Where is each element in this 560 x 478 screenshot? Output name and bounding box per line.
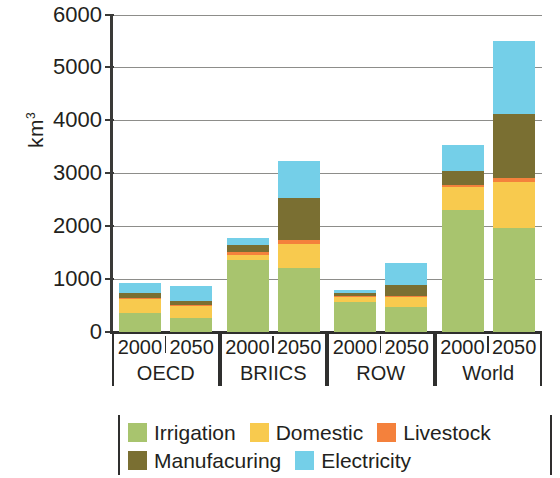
bar-segment-manufacturing (278, 198, 320, 240)
bar-row-2000 (334, 290, 376, 332)
x-axis-year-labels: 20002050 (437, 334, 541, 361)
bar-oecd-2000 (119, 283, 161, 332)
bar-segment-irrigation (119, 313, 161, 332)
bar-segment-electricity (170, 286, 212, 301)
y-axis-tick-label: 1000 (34, 268, 102, 290)
x-axis-year-labels: 20002050 (329, 334, 433, 361)
x-axis-year-label: 2050 (381, 334, 433, 361)
bar-segment-domestic (493, 182, 535, 228)
legend-item-domestic: Domestic (250, 422, 364, 443)
legend: IrrigationDomesticLivestock Manufacuring… (118, 415, 552, 475)
bar-segment-electricity (442, 145, 484, 171)
livestock-swatch-icon (377, 423, 396, 442)
x-axis-year-label: 2050 (273, 334, 325, 361)
y-axis-tick-label: 0 (34, 321, 102, 343)
bar-segment-electricity (385, 263, 427, 285)
x-axis-year-label: 2050 (488, 334, 540, 361)
y-axis-tick-label: 2000 (34, 215, 102, 237)
x-axis-group-row: 20002050ROW (327, 334, 435, 386)
x-axis-year-labels: 20002050 (114, 334, 218, 361)
legend-row-1: IrrigationDomesticLivestock (128, 418, 544, 446)
bar-segment-irrigation (170, 318, 212, 332)
bar-oecd-2050 (170, 286, 212, 332)
bar-segment-domestic (278, 244, 320, 268)
y-axis-tick-label: 3000 (34, 162, 102, 184)
bar-segment-manufacturing (227, 245, 269, 252)
bar-segment-irrigation (278, 268, 320, 332)
bar-segment-electricity (227, 238, 269, 245)
domestic-swatch-icon (250, 423, 269, 442)
legend-label: Livestock (403, 422, 491, 443)
x-axis-year-labels: 20002050 (222, 334, 326, 361)
x-axis-year-label: 2000 (437, 334, 489, 361)
legend-item-electricity: Electricity (295, 450, 411, 471)
x-axis-year-label: 2050 (166, 334, 218, 361)
bar-row-2050 (385, 263, 427, 332)
x-axis-group-label: OECD (114, 360, 218, 386)
x-axis: 20002050OECD20002050BRIICS20002050ROW200… (110, 334, 542, 386)
bar-briics-2050 (278, 161, 320, 332)
bar-segment-domestic (170, 306, 212, 318)
legend-item-livestock: Livestock (377, 422, 491, 443)
bar-segment-irrigation (493, 228, 535, 332)
legend-label: Manufacuring (154, 450, 281, 471)
x-axis-group-oecd: 20002050OECD (112, 334, 220, 386)
y-axis-tick-label: 4000 (34, 109, 102, 131)
plot-area (112, 14, 542, 332)
legend-label: Irrigation (154, 422, 236, 443)
legend-row-2: ManufacuringElectricity (128, 446, 544, 474)
x-axis-group-world: 20002050World (435, 334, 543, 386)
bar-segment-manufacturing (442, 171, 484, 185)
x-axis-group-briics: 20002050BRIICS (220, 334, 328, 386)
bar-segment-domestic (442, 187, 484, 210)
x-axis-year-label: 2000 (114, 334, 166, 361)
electricity-swatch-icon (295, 451, 314, 470)
bar-segment-manufacturing (493, 114, 535, 178)
legend-label: Domestic (276, 422, 364, 443)
legend-label: Electricity (321, 450, 411, 471)
manufacturing-swatch-icon (128, 451, 147, 470)
x-axis-group-label: ROW (329, 360, 433, 386)
bar-segment-irrigation (442, 210, 484, 332)
bar-segment-electricity (493, 41, 535, 114)
bar-segment-domestic (119, 299, 161, 313)
bar-segment-domestic (385, 297, 427, 307)
bar-segment-irrigation (227, 260, 269, 332)
bar-world-2000 (442, 145, 484, 332)
y-axis-tick-label: 6000 (34, 4, 102, 26)
water-demand-stacked-bar-chart: km3 6000500040003000200010000 20002050OE… (0, 0, 560, 478)
irrigation-swatch-icon (128, 423, 147, 442)
x-axis-year-label: 2000 (222, 334, 274, 361)
bar-segment-manufacturing (385, 285, 427, 296)
bar-segment-irrigation (334, 302, 376, 332)
x-axis-group-label: BRIICS (222, 360, 326, 386)
bar-world-2050 (493, 41, 535, 332)
legend-item-manufacturing: Manufacuring (128, 450, 281, 471)
legend-item-irrigation: Irrigation (128, 422, 236, 443)
bar-briics-2000 (227, 238, 269, 332)
x-axis-year-label: 2000 (329, 334, 381, 361)
y-axis-tick-label: 5000 (34, 56, 102, 78)
bar-segment-irrigation (385, 307, 427, 332)
bar-segment-electricity (278, 161, 320, 198)
bar-segment-electricity (119, 283, 161, 294)
x-axis-group-label: World (437, 360, 541, 386)
